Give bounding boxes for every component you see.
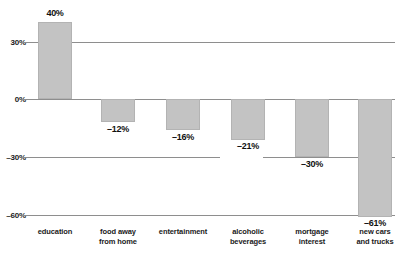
plot-area: 40% –12% –16% –21% –30% –61% bbox=[30, 14, 395, 220]
category-label-mortgage-line1: mortgage bbox=[295, 227, 328, 237]
tick-stub-neg30 bbox=[22, 157, 30, 158]
bar-alcoholic bbox=[231, 99, 265, 139]
category-label-food-away-line2: from home bbox=[99, 237, 137, 247]
bar-food-away bbox=[101, 99, 135, 122]
category-label-alcoholic: alcoholic beverages bbox=[230, 227, 266, 247]
category-label-education-line1: education bbox=[38, 227, 73, 237]
category-label-new-cars-line1: new cars bbox=[357, 227, 394, 237]
gridline-neg60 bbox=[30, 215, 395, 216]
bar-entertainment bbox=[166, 99, 200, 130]
gridline-neg30-left bbox=[30, 157, 220, 158]
category-label-mortgage: mortgage interest bbox=[295, 227, 328, 247]
value-label-mortgage: –30% bbox=[299, 159, 325, 169]
bar-mortgage bbox=[295, 99, 329, 157]
category-label-new-cars-line2: and trucks bbox=[357, 237, 394, 247]
category-label-entertainment: entertainment bbox=[159, 227, 207, 237]
bar-education bbox=[38, 22, 72, 99]
value-label-education: 40% bbox=[46, 8, 63, 18]
tick-stub-0 bbox=[22, 99, 30, 100]
category-label-food-away: food away from home bbox=[99, 227, 137, 247]
category-label-food-away-line1: food away bbox=[99, 227, 137, 237]
gridline-30 bbox=[30, 42, 395, 43]
gridline-zero bbox=[30, 99, 395, 100]
value-label-food-away: –12% bbox=[105, 124, 131, 134]
category-label-alcoholic-line2: beverages bbox=[230, 237, 266, 247]
tick-stub-30 bbox=[22, 42, 30, 43]
tick-stub-neg60 bbox=[22, 215, 30, 216]
category-label-mortgage-line2: interest bbox=[295, 237, 328, 247]
bar-chart: 30% 0% –30% –60% 40% –12% –16% –21% –30%… bbox=[0, 0, 408, 257]
y-axis: 30% 0% –30% –60% bbox=[0, 14, 26, 220]
bar-new-cars bbox=[358, 99, 392, 216]
value-label-entertainment: –16% bbox=[170, 132, 196, 142]
category-label-new-cars: new cars and trucks bbox=[357, 227, 394, 247]
value-label-alcoholic: –21% bbox=[235, 141, 261, 151]
category-label-alcoholic-line1: alcoholic bbox=[230, 227, 266, 237]
category-label-entertainment-line1: entertainment bbox=[159, 227, 207, 237]
category-label-education: education bbox=[38, 227, 73, 237]
